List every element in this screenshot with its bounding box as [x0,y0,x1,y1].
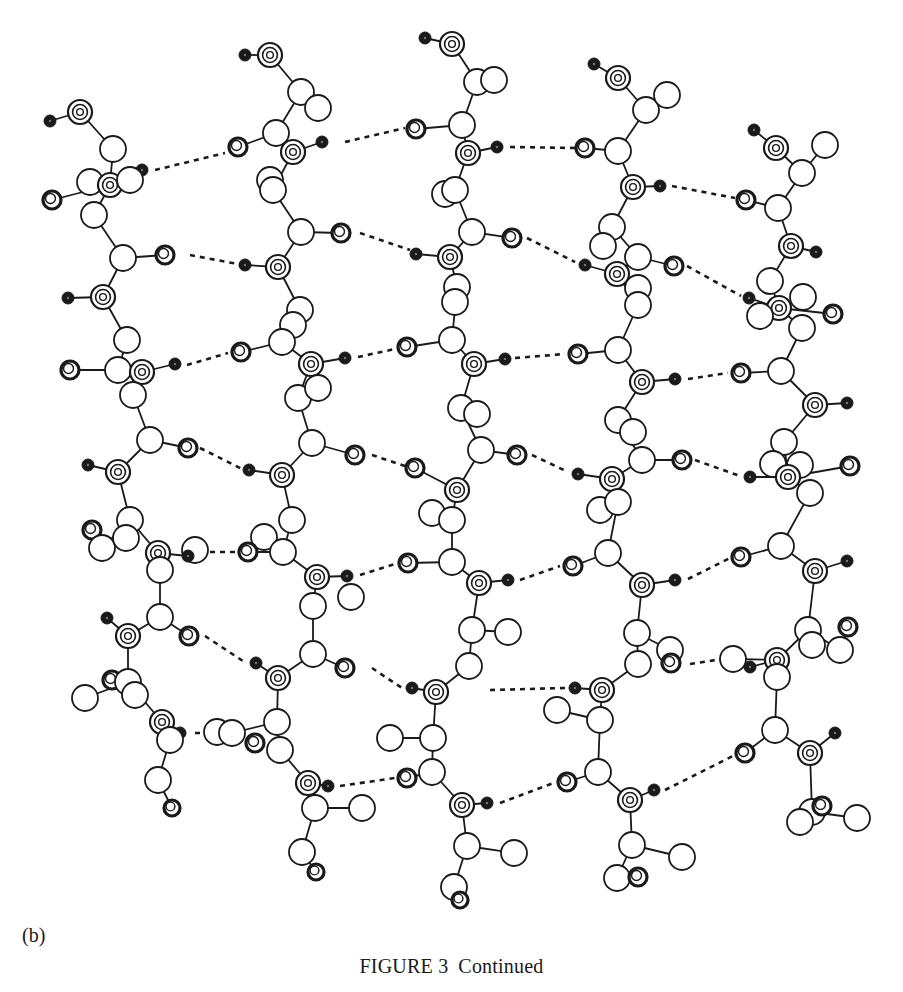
atom-dot-icon [569,682,581,694]
atom-open-icon [768,533,794,559]
atom-oxy-icon [841,457,859,475]
hydrogen-bond [515,354,565,358]
atom-ring-icon [803,393,827,417]
atom-oxy-icon [232,343,250,361]
atom-ring-icon [438,245,462,269]
atom-dot-icon [502,574,514,586]
atom-oxy-icon [156,246,174,264]
atom-oxy-icon [732,364,750,382]
atom-dot-icon [250,657,262,669]
atom-ring-icon [618,788,642,812]
atom-dot-icon [406,682,418,694]
hydrogen-bond [490,688,565,690]
atom-open-icon [89,535,115,561]
atom-ring-icon [779,234,803,258]
atom-open-icon [459,617,485,643]
hydrogen-bond [672,186,735,198]
atom-open-icon [338,584,364,610]
atom-ring-icon [606,66,630,90]
atom-dot-icon [810,246,822,258]
atom-open-icon [590,233,616,259]
atom-open-icon [757,268,783,294]
atom-open-icon [449,112,475,138]
atom-open-icon [797,480,823,506]
atom-dot-icon [239,259,251,271]
atom-open-icon [669,844,695,870]
atom-oxy-icon [399,554,417,572]
atom-open-icon [100,136,126,162]
atom-dot-icon [44,115,56,127]
atom-dot-icon [748,124,760,136]
atom-dot-icon [322,780,334,792]
atom-ring-icon [798,741,822,765]
atom-open-icon [764,664,790,690]
atom-dot-icon [410,248,422,260]
atom-open-icon [501,840,527,866]
atom-dot-icon [743,292,755,304]
atom-open-icon [605,138,631,164]
hydrogen-bond [688,558,730,579]
atom-ring-icon [258,43,282,67]
atom-ring-icon [91,285,115,309]
atom-oxy-icon [736,744,754,762]
atom-open-icon [464,401,490,427]
atom-oxy-icon [346,446,364,464]
atom-oxy-icon [839,618,857,636]
atom-open-icon [459,219,485,245]
atom-oxy-icon [824,305,842,323]
atom-open-icon [587,707,613,733]
atom-dot-icon [101,612,113,624]
atom-open-icon [799,632,825,658]
atom-open-icon [456,653,482,679]
atom-ring-icon [270,463,294,487]
atom-ring-icon [445,478,469,502]
hydrogen-bond [520,566,560,580]
atom-oxy-icon [569,345,587,363]
atom-open-icon [654,82,680,108]
hydrogen-bond [345,128,405,142]
atom-open-icon [157,727,183,753]
atom-open-icon [747,303,773,329]
atom-oxy-icon [179,439,197,457]
atom-ring-icon [266,255,290,279]
atom-open-icon [279,507,305,533]
atom-oxy-icon [732,548,750,566]
atom-oxy-icon [813,797,831,815]
atom-open-icon [300,641,326,667]
atom-open-icon [349,795,375,821]
atom-ring-icon [600,467,624,491]
atom-dot-icon [182,550,194,562]
atom-open-icon [147,557,173,583]
hydrogen-bond [187,353,228,365]
atom-ring-icon [424,680,448,704]
hydrogen-bond [155,153,225,170]
atom-open-icon [789,315,815,341]
atom-open-icon [145,767,171,793]
atom-glyphs [43,32,870,908]
atom-open-icon [120,382,146,408]
figure-caption: FIGURE 3Continued [0,955,903,978]
atom-open-icon [305,95,331,121]
atom-ring-icon [106,460,130,484]
atom-open-icon [300,593,326,619]
atom-oxy-icon [558,773,576,791]
atom-open-icon [260,177,286,203]
atom-open-icon [625,651,651,677]
atom-ring-icon [281,140,305,164]
atom-oxy-icon [239,543,257,561]
atom-oxy-icon [180,627,198,645]
atom-open-icon [219,720,245,746]
atom-dot-icon [62,292,74,304]
hydrogen-bond [372,455,405,466]
hydrogen-bond [190,255,243,265]
atom-open-icon [137,427,163,453]
atom-open-icon [81,202,107,228]
hydrogen-bond [665,755,735,790]
atom-oxy-icon [452,892,468,908]
atom-oxy-icon [508,446,526,464]
atom-open-icon [439,507,465,533]
atom-open-icon [269,329,295,355]
atom-open-icon [625,244,651,270]
hydrogen-bond [358,349,395,357]
atom-open-icon [768,358,794,384]
